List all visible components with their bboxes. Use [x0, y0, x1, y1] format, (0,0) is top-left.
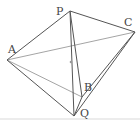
- tetrahedron-figure: [0, 0, 140, 127]
- diagram-canvas: A P C B Q: [0, 0, 140, 127]
- label-Q: Q: [80, 108, 89, 119]
- label-C: C: [124, 17, 132, 28]
- edge-C-Q: [74, 32, 135, 116]
- label-P: P: [56, 6, 63, 17]
- label-A: A: [8, 44, 16, 55]
- center-point: [70, 61, 73, 64]
- label-B: B: [84, 82, 92, 93]
